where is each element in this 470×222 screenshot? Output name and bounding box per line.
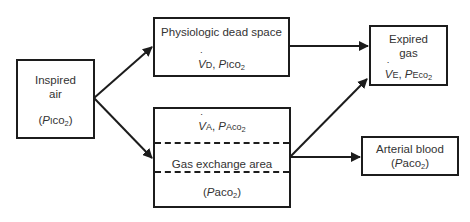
gas-exchange-label: Gas exchange area xyxy=(155,157,289,171)
gas-exchange-alveolar-params: VA, PAco2 xyxy=(155,119,289,134)
dead-space-label: Physiologic dead space xyxy=(155,25,288,39)
param-p: P xyxy=(405,68,413,80)
arrow-inspired-to-deadspace xyxy=(94,47,152,98)
paren-close: ) xyxy=(425,157,429,169)
param-2: 2 xyxy=(428,73,432,82)
expired-gas-box: Expired gas VE, PEco2 xyxy=(369,25,448,86)
inspired-air-label-1: Inspired xyxy=(18,73,93,87)
inspired-air-box: Inspired air (PIco2) xyxy=(16,59,95,139)
param-2: 2 xyxy=(242,125,246,134)
dashed-divider-top xyxy=(155,142,289,144)
param-co: co xyxy=(419,70,429,80)
arterial-blood-label: Arterial blood xyxy=(363,142,457,156)
param-p: P xyxy=(42,114,50,126)
param-co: co xyxy=(229,58,241,70)
arrow-gas-exchange-to-expired xyxy=(290,79,367,157)
inspired-air-label-2: air xyxy=(18,87,93,101)
param-co: co xyxy=(221,186,233,198)
arrow-inspired-to-gas-exchange xyxy=(94,98,152,158)
param-2: 2 xyxy=(241,63,245,72)
flow-v: V xyxy=(198,57,206,71)
param-co: co xyxy=(232,122,242,132)
gas-exchange-box: VA, PAco2 Gas exchange area (Paco2) xyxy=(153,107,291,208)
flow-v: V xyxy=(385,67,393,81)
param-p: P xyxy=(218,120,226,132)
paren-close: ) xyxy=(69,114,73,126)
param-co: co xyxy=(409,157,421,169)
expired-gas-params: VE, PEco2 xyxy=(371,67,446,82)
dashed-divider-bottom xyxy=(155,171,289,173)
flow-v: V xyxy=(198,119,206,133)
arterial-blood-box: Arterial blood (Paco2) xyxy=(361,136,459,176)
inspired-air-param: (PIco2) xyxy=(18,113,93,128)
dead-space-params: VD, PIco2 xyxy=(155,57,288,72)
expired-gas-label-1: Expired xyxy=(371,32,446,46)
dead-space-box: Physiologic dead space VD, PIco2 xyxy=(153,17,290,77)
expired-gas-label-2: gas xyxy=(371,46,446,60)
arterial-blood-param: (Paco2) xyxy=(363,156,457,170)
paren-close: ) xyxy=(237,186,241,198)
param-co: co xyxy=(52,114,64,126)
gas-exchange-arterial-param: (Paco2) xyxy=(155,185,289,199)
